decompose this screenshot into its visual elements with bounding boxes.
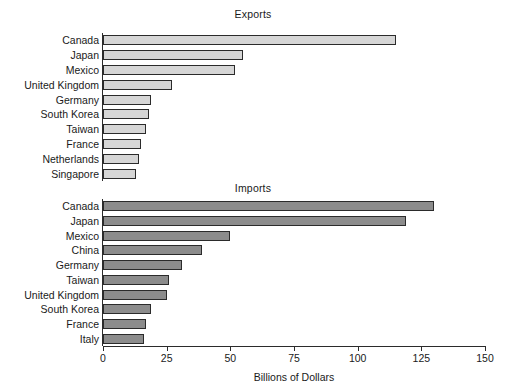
category-label: United Kingdom	[24, 289, 99, 301]
bar	[103, 334, 144, 344]
imports-plot-area: CanadaJapanMexicoChinaGermanyTaiwanUnite…	[103, 199, 485, 346]
bar-row: South Korea	[103, 302, 485, 317]
bar-row: Japan	[103, 214, 485, 229]
category-label: Netherlands	[42, 153, 99, 165]
bar-row: Netherlands	[103, 151, 485, 166]
bar-row: United Kingdom	[103, 77, 485, 92]
x-tick-mark	[485, 346, 486, 351]
x-tick-label: 25	[161, 352, 173, 364]
x-tick-mark	[103, 346, 104, 351]
exports-panel-title: Exports	[0, 8, 506, 20]
bar	[103, 124, 146, 134]
bar-row: Canada	[103, 199, 485, 214]
x-tick-mark	[294, 346, 295, 351]
category-label: Italy	[80, 333, 99, 345]
x-axis-label: Billions of Dollars	[103, 371, 485, 383]
bar-row: China	[103, 243, 485, 258]
x-tick-label: 100	[349, 352, 367, 364]
category-label: Canada	[62, 200, 99, 212]
bar	[103, 275, 169, 285]
bar-row: Taiwan	[103, 273, 485, 288]
bar	[103, 290, 167, 300]
bar-row: South Korea	[103, 107, 485, 122]
x-tick-mark	[358, 346, 359, 351]
bar-row: Germany	[103, 258, 485, 273]
bar-row: France	[103, 317, 485, 332]
bar-row: Germany	[103, 92, 485, 107]
x-axis-ticks: 0255075100125150	[103, 346, 485, 370]
category-label: France	[66, 138, 99, 150]
bar-chart-figure: Exports CanadaJapanMexicoUnited KingdomG…	[0, 0, 506, 392]
bar	[103, 304, 151, 314]
category-label: United Kingdom	[24, 79, 99, 91]
category-label: Singapore	[51, 168, 99, 180]
bar-row: Mexico	[103, 228, 485, 243]
bar	[103, 80, 172, 90]
x-tick-label: 75	[288, 352, 300, 364]
bar	[103, 231, 230, 241]
category-label: South Korea	[41, 303, 99, 315]
bar	[103, 109, 149, 119]
bar-row: Mexico	[103, 63, 485, 78]
category-label: China	[72, 244, 99, 256]
bar-row: United Kingdom	[103, 287, 485, 302]
bar	[103, 65, 235, 75]
x-tick-label: 125	[413, 352, 431, 364]
x-tick-label: 150	[476, 352, 494, 364]
bar-row: Canada	[103, 33, 485, 48]
x-tick-mark	[421, 346, 422, 351]
bar-row: Japan	[103, 48, 485, 63]
bar	[103, 35, 396, 45]
bar	[103, 95, 151, 105]
bar	[103, 245, 202, 255]
bar	[103, 201, 434, 211]
category-label: Japan	[70, 49, 99, 61]
bar	[103, 139, 141, 149]
category-label: Taiwan	[66, 123, 99, 135]
bar-row: Italy	[103, 331, 485, 346]
x-tick-mark	[167, 346, 168, 351]
bar	[103, 154, 139, 164]
category-label: Germany	[56, 259, 99, 271]
exports-plot-area: CanadaJapanMexicoUnited KingdomGermanySo…	[103, 33, 485, 181]
category-label: Germany	[56, 94, 99, 106]
category-label: Taiwan	[66, 274, 99, 286]
bar	[103, 216, 406, 226]
bar-row: Taiwan	[103, 122, 485, 137]
category-label: Mexico	[66, 230, 99, 242]
bar	[103, 260, 182, 270]
imports-panel-title: Imports	[0, 182, 506, 194]
x-tick-label: 50	[224, 352, 236, 364]
bar	[103, 319, 146, 329]
x-tick-label: 0	[100, 352, 106, 364]
category-label: France	[66, 318, 99, 330]
category-label: Canada	[62, 34, 99, 46]
x-tick-mark	[230, 346, 231, 351]
category-label: South Korea	[41, 108, 99, 120]
bar-row: France	[103, 137, 485, 152]
bar	[103, 50, 243, 60]
category-label: Mexico	[66, 64, 99, 76]
bar	[103, 169, 136, 179]
bar-row: Singapore	[103, 166, 485, 181]
category-label: Japan	[70, 215, 99, 227]
